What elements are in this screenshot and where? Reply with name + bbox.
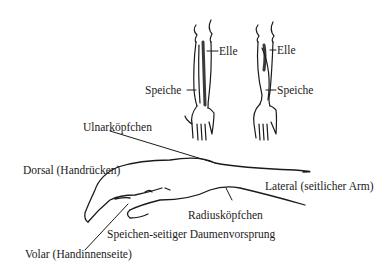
label-speiche-right: Speiche [277, 85, 313, 97]
label-ulnarkoepfchen: Ulnarköpfchen [83, 122, 152, 134]
left-arm-drawing [185, 20, 214, 140]
label-elle-left: Elle [219, 46, 238, 58]
label-lateral: Lateral (seitlicher Arm) [265, 181, 374, 193]
right-arm-drawing [254, 22, 277, 140]
label-elle-right: Elle [277, 45, 296, 57]
label-dorsal: Dorsal (Handrücken) [23, 165, 120, 177]
label-speiche-left: Speiche [145, 85, 181, 97]
label-daumenvorsprung: Speichen-seitiger Daumenvorsprung [107, 229, 275, 241]
label-radiuskoepfchen: Radiusköpfchen [188, 210, 263, 222]
label-volar: Volar (Handinnenseite) [25, 249, 132, 261]
